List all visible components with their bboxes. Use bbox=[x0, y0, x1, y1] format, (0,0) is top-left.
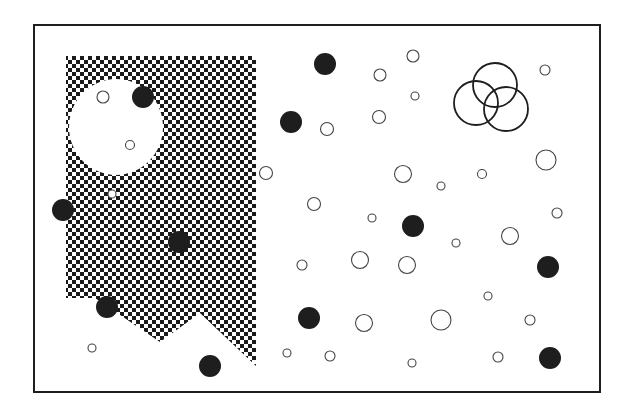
overlapping-circle bbox=[473, 63, 517, 107]
open-circle bbox=[108, 190, 116, 198]
checkered-region bbox=[66, 56, 256, 366]
open-circle bbox=[478, 170, 487, 179]
open-circle bbox=[452, 239, 460, 247]
open-circle bbox=[395, 166, 412, 183]
open-circle bbox=[356, 315, 373, 332]
circles-diagram bbox=[0, 0, 631, 415]
filled-circle bbox=[539, 347, 561, 369]
filled-circle bbox=[280, 111, 302, 133]
open-circle bbox=[437, 182, 445, 190]
overlapping-circle bbox=[454, 81, 498, 125]
open-circle bbox=[399, 257, 416, 274]
filled-circle bbox=[132, 86, 154, 108]
open-circle bbox=[321, 123, 334, 136]
open-circle bbox=[493, 352, 503, 362]
open-circle bbox=[484, 292, 492, 300]
open-circle bbox=[373, 111, 386, 124]
open-circle bbox=[408, 359, 416, 367]
filled-circle bbox=[52, 199, 74, 221]
filled-circle bbox=[96, 296, 118, 318]
filled-circle bbox=[298, 307, 320, 329]
open-circle bbox=[407, 50, 419, 62]
open-circle bbox=[260, 167, 273, 180]
open-circle bbox=[411, 92, 419, 100]
open-circle bbox=[126, 141, 135, 150]
open-circle bbox=[540, 65, 550, 75]
filled-circle bbox=[199, 355, 221, 377]
overlapping-circle bbox=[484, 87, 528, 131]
open-circle bbox=[525, 315, 535, 325]
open-circle bbox=[552, 208, 562, 218]
filled-circle bbox=[314, 53, 336, 75]
open-circle bbox=[536, 150, 556, 170]
open-circle bbox=[352, 252, 369, 269]
open-circle bbox=[325, 351, 335, 361]
open-circle bbox=[297, 260, 307, 270]
open-circle bbox=[97, 91, 109, 103]
overlapping-circles-group bbox=[454, 63, 528, 131]
filled-circle bbox=[537, 256, 559, 278]
open-circle bbox=[431, 310, 451, 330]
open-circle bbox=[374, 69, 386, 81]
open-circle bbox=[502, 228, 519, 245]
filled-circle bbox=[168, 231, 190, 253]
open-circle bbox=[88, 344, 96, 352]
diagram-canvas bbox=[0, 0, 631, 415]
filled-circle bbox=[402, 215, 424, 237]
open-circle bbox=[308, 198, 321, 211]
open-circle bbox=[368, 214, 376, 222]
open-circle bbox=[283, 349, 291, 357]
